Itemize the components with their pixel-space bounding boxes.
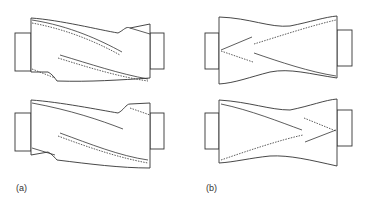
left-shaft (205, 33, 219, 69)
roller-body (31, 100, 150, 168)
left-shaft (15, 33, 31, 71)
panel-b-top-roller (205, 16, 352, 84)
left-shaft (15, 113, 31, 151)
left-shaft (205, 113, 219, 149)
roller-body (219, 16, 337, 84)
diagram-canvas (0, 0, 366, 206)
panel-label-a: (a) (16, 183, 27, 193)
roller-body (219, 99, 337, 166)
right-shaft (150, 33, 164, 69)
right-shaft (337, 110, 352, 146)
panel-b-bottom-roller (205, 99, 352, 166)
panel-a-top-roller (15, 18, 164, 81)
panel-a-bottom-roller (15, 100, 164, 168)
right-shaft (337, 30, 352, 66)
right-shaft (150, 113, 164, 149)
panel-label-b: (b) (206, 183, 217, 193)
roller-body (31, 18, 150, 81)
